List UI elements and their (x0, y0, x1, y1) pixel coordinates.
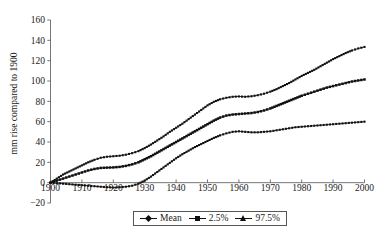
data-point-marker (106, 156, 108, 158)
data-point-marker (148, 177, 150, 179)
data-point-marker (235, 113, 238, 116)
data-point-marker (286, 83, 288, 85)
data-point-marker (271, 90, 273, 92)
data-point-marker (266, 131, 268, 133)
data-point-marker (316, 89, 319, 92)
data-point-marker (354, 121, 356, 123)
data-point-marker (68, 183, 70, 185)
data-point-marker (357, 121, 359, 123)
data-point-marker (139, 182, 141, 184)
y-axis-tick-label: 120 (31, 56, 46, 66)
data-point-marker (103, 186, 105, 188)
data-point-marker (70, 169, 72, 171)
data-point-marker (146, 178, 148, 180)
legend-entry-mean[interactable]: Mean (140, 214, 182, 224)
data-point-marker (91, 160, 93, 162)
data-point-marker (162, 166, 164, 168)
data-point-marker (58, 176, 60, 178)
data-point-marker (269, 130, 271, 132)
data-point-marker (315, 68, 317, 70)
data-point-marker (266, 92, 268, 94)
data-point-marker (311, 70, 313, 72)
data-point-marker (363, 46, 365, 48)
data-point-marker (247, 112, 250, 115)
data-point-marker (238, 130, 240, 132)
data-point-marker (298, 126, 300, 128)
data-point-marker (96, 167, 99, 170)
data-point-marker (181, 123, 183, 125)
x-axis-tick-label: 1970 (261, 183, 280, 193)
data-point-marker (81, 171, 84, 174)
data-point-marker (65, 176, 68, 179)
data-point-marker (192, 147, 194, 149)
y-axis-tick-label: 60 (36, 117, 46, 127)
legend-entry-lower-bound[interactable]: 2.5% (189, 214, 229, 224)
data-point-marker (200, 109, 202, 111)
data-point-marker (225, 114, 228, 117)
data-point-marker (332, 123, 334, 125)
data-point-marker (253, 111, 256, 114)
data-point-marker (190, 148, 192, 150)
data-point-marker (260, 93, 262, 95)
data-point-marker (154, 141, 156, 143)
data-point-marker (341, 83, 344, 86)
data-point-marker (254, 95, 256, 97)
data-point-marker (211, 102, 213, 104)
data-point-marker (211, 138, 213, 140)
y-axis-title: mm rise compared to 1900 (9, 52, 19, 154)
diamond-marker-icon (140, 215, 157, 222)
data-point-marker (250, 131, 252, 133)
data-point-marker (171, 129, 173, 131)
data-point-marker (158, 138, 160, 140)
data-point-marker (167, 132, 169, 134)
x-axis-tick-label: 1990 (324, 183, 343, 193)
data-point-marker (357, 47, 359, 49)
data-point-marker (175, 157, 177, 159)
x-axis-tick-label: 1950 (198, 183, 217, 193)
data-point-marker (309, 71, 311, 73)
data-point-marker (247, 131, 249, 133)
data-point-marker (71, 174, 74, 177)
data-point-marker (354, 80, 357, 83)
data-point-marker (213, 101, 215, 103)
data-point-marker (79, 165, 81, 167)
data-point-marker (326, 86, 329, 89)
data-point-marker (307, 72, 309, 74)
data-point-marker (188, 150, 190, 152)
data-point-marker (121, 165, 124, 168)
data-point-marker (329, 86, 332, 89)
data-point-marker (139, 149, 141, 151)
data-point-marker (142, 181, 144, 183)
data-point-marker (125, 186, 127, 188)
data-point-marker (225, 132, 227, 134)
data-point-marker (263, 93, 265, 95)
data-point-marker (307, 125, 309, 127)
data-point-marker (118, 166, 121, 169)
data-point-marker (93, 159, 95, 161)
data-point-marker (256, 111, 259, 114)
legend-entry-upper-bound[interactable]: 97.5% (235, 214, 280, 224)
data-point-marker (87, 169, 90, 172)
legend-label-mean: Mean (160, 214, 182, 224)
data-point-marker (313, 125, 315, 127)
data-point-marker (122, 154, 124, 156)
data-point-marker (335, 84, 338, 87)
data-point-marker (319, 65, 321, 67)
data-point-marker (206, 104, 208, 106)
data-point-marker (288, 82, 290, 84)
data-point-marker (351, 49, 353, 51)
data-point-marker (77, 166, 79, 168)
data-point-marker (115, 155, 117, 157)
data-point-marker (204, 141, 206, 143)
data-point-marker (115, 166, 118, 169)
data-point-marker (177, 125, 179, 127)
data-point-marker (49, 182, 51, 184)
data-point-marker (219, 116, 222, 119)
data-point-marker (294, 78, 296, 80)
data-point-marker (122, 186, 124, 188)
data-point-marker (285, 128, 287, 130)
square-marker-icon (189, 215, 206, 222)
data-point-marker (68, 175, 71, 178)
data-point-marker (335, 123, 337, 125)
data-point-marker (152, 174, 154, 176)
